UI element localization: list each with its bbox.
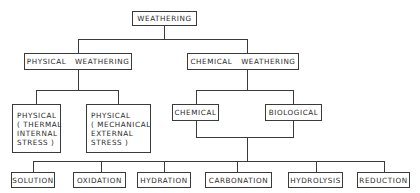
node-carbonation-label: CARBONATION xyxy=(209,176,268,185)
node-chemical-weathering-label: CHEMICAL WEATHERING xyxy=(190,57,295,66)
connector-chem-bio-bar xyxy=(196,137,294,138)
connector-chemical-down xyxy=(247,69,248,90)
node-hydrolysis: HYDROLYSIS xyxy=(288,172,343,188)
connector-thermal-up xyxy=(36,90,37,104)
connector-hydrolysis-up xyxy=(316,161,317,172)
connector-chem-down xyxy=(196,120,197,138)
connector-physical-bar xyxy=(36,90,119,91)
node-biological-label: BIOLOGICAL xyxy=(269,108,319,117)
connector-physical-up xyxy=(78,39,79,53)
node-hydrolysis-label: HYDROLYSIS xyxy=(290,176,341,185)
connector-chemical-bar xyxy=(196,90,294,91)
node-oxidation-label: OXIDATION xyxy=(77,176,122,185)
connector-reduction-up xyxy=(384,161,385,172)
node-physical-thermal-line-1: PHYSICAL xyxy=(17,111,57,120)
node-physical-thermal-line-4: STRESS ) xyxy=(17,138,55,147)
connector-physical-down xyxy=(78,69,79,90)
connector-chemical-up xyxy=(247,39,248,53)
node-physical-thermal-line-3: INTERNAL xyxy=(17,129,58,138)
node-solution-label: SOLUTION xyxy=(12,176,53,185)
node-biological: BIOLOGICAL xyxy=(265,104,322,121)
connector-chem-up xyxy=(196,90,197,104)
node-physical-mechanical: PHYSICAL ( MECHANICAL EXTERNAL STRESS ) xyxy=(86,104,151,153)
node-chemical-weathering: CHEMICAL WEATHERING xyxy=(187,53,299,70)
node-physical-thermal: PHYSICAL ( THERMAL INTERNAL STRESS ) xyxy=(12,104,61,153)
connector-oxidation-up xyxy=(101,161,102,172)
connector-level1-bar xyxy=(78,39,248,40)
connector-hydration-up xyxy=(164,161,165,172)
node-physical-mechanical-line-3: EXTERNAL xyxy=(91,129,133,138)
node-chemical-label: CHEMICAL xyxy=(174,108,216,117)
node-solution: SOLUTION xyxy=(11,172,55,188)
node-carbonation: CARBONATION xyxy=(205,172,272,188)
node-hydration: HYDRATION xyxy=(137,172,191,188)
connector-bio-up xyxy=(293,90,294,104)
connector-mechanical-up xyxy=(118,90,119,104)
connector-processes-bar xyxy=(33,161,385,162)
node-reduction: REDUCTION xyxy=(357,172,410,188)
node-physical-weathering: PHYSICAL WEATHERING xyxy=(24,53,132,70)
node-physical-mechanical-line-2: ( MECHANICAL xyxy=(91,120,151,129)
node-physical-mechanical-line-4: STRESS ) xyxy=(91,138,129,147)
connector-root-down xyxy=(164,25,165,39)
node-physical-mechanical-line-1: PHYSICAL xyxy=(91,111,131,120)
node-oxidation: OXIDATION xyxy=(73,172,126,188)
node-physical-thermal-line-2: ( THERMAL xyxy=(17,120,62,129)
connector-processes-down xyxy=(247,137,248,162)
connector-carbonation-up xyxy=(237,161,238,172)
node-physical-weathering-label: PHYSICAL WEATHERING xyxy=(27,57,130,66)
node-weathering: WEATHERING xyxy=(132,11,197,26)
node-weathering-label: WEATHERING xyxy=(137,14,191,23)
connector-solution-up xyxy=(33,161,34,172)
node-hydration-label: HYDRATION xyxy=(140,176,187,185)
connector-bio-down xyxy=(293,120,294,138)
node-reduction-label: REDUCTION xyxy=(359,176,407,185)
node-chemical: CHEMICAL xyxy=(172,104,219,121)
